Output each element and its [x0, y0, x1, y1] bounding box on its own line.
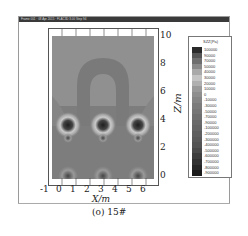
- x-tick-label: 3: [98, 184, 104, 194]
- color-legend: SZZ(Pa) 10000090000700005000040000300002…: [188, 36, 232, 178]
- top-tick-strip: [49, 29, 158, 36]
- window-bottom-border: [18, 203, 230, 204]
- legend-title: SZZ(Pa): [203, 39, 218, 44]
- x-tick-label: 5: [126, 184, 132, 194]
- y-tick-label: 2: [160, 142, 166, 152]
- y-tick-label: 6: [160, 86, 166, 96]
- contour-image: [52, 36, 154, 179]
- x-tick-label: 2: [84, 184, 90, 194]
- x-tick-label: 4: [112, 184, 118, 194]
- x-tick-label: -1: [40, 184, 49, 194]
- y-tick-label: 10: [160, 30, 171, 40]
- legend-item: -900000: [192, 170, 232, 176]
- figure-caption: (o) 15#: [92, 207, 126, 217]
- legend-label: -900000: [204, 170, 219, 176]
- stress-contour-plot: [52, 36, 154, 179]
- x-tick-label: 0: [56, 184, 62, 194]
- y-tick-label: 4: [160, 114, 166, 124]
- window-titlebar: Frame 001 · 08 Apr 2015 · FLAC3D 3.00 St…: [19, 17, 229, 22]
- plot-frame: [48, 28, 159, 186]
- x-tick-label: 1: [70, 184, 76, 194]
- y-tick-label: 8: [160, 58, 166, 68]
- y-tick-label: 0: [160, 170, 166, 180]
- y-axis-label: Z/m: [172, 93, 183, 113]
- x-tick-label: 6: [140, 184, 146, 194]
- legend-swatch: [192, 170, 202, 176]
